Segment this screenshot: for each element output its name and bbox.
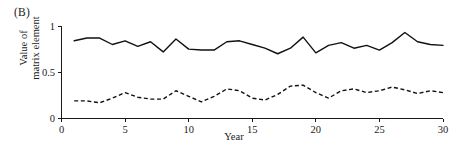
- series-line-upper: [74, 32, 443, 53]
- x-tick-label: 10: [183, 124, 194, 135]
- figure-panel-b: (B) Value of matrix element Year 00.51 0…: [0, 0, 468, 147]
- y-axis-ticks: [58, 26, 62, 119]
- axis-spines: [62, 26, 444, 119]
- x-tick-label: 20: [311, 124, 322, 135]
- x-axis-ticks: [62, 119, 444, 123]
- series-line-lower: [74, 85, 443, 103]
- y-tick-label: 0.5: [42, 67, 55, 78]
- chart-plot-area: 00.51 051015202530: [0, 0, 468, 147]
- y-axis-tick-labels: 00.51: [42, 21, 55, 125]
- x-tick-label: 0: [59, 124, 64, 135]
- x-tick-label: 30: [438, 124, 449, 135]
- x-axis-tick-labels: 051015202530: [59, 124, 448, 135]
- y-tick-label: 1: [50, 21, 55, 32]
- y-tick-label: 0: [50, 113, 55, 124]
- x-tick-label: 15: [247, 124, 258, 135]
- x-tick-label: 5: [122, 124, 127, 135]
- x-tick-label: 25: [374, 124, 385, 135]
